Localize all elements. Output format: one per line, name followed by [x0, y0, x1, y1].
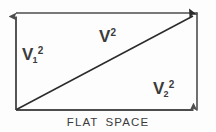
label-v1-superscript: 2 [38, 45, 44, 56]
label-v-squared: V2 [99, 28, 116, 45]
label-v-base: V [99, 27, 111, 46]
diagram-canvas [0, 0, 216, 132]
label-v1-base: V [22, 45, 34, 64]
label-v1-subscript: 1 [33, 55, 38, 65]
figure-caption: FLAT SPACE [0, 116, 216, 128]
label-v1-squared: V12 [22, 46, 44, 65]
flat-space-figure: V12 V2 V22 FLAT SPACE [0, 0, 216, 132]
label-v2-subscript: 2 [164, 89, 169, 99]
label-v2-base: V [153, 79, 165, 98]
label-v-superscript: 2 [111, 27, 117, 38]
label-v2-squared: V22 [153, 80, 175, 99]
label-v2-superscript: 2 [169, 79, 175, 90]
